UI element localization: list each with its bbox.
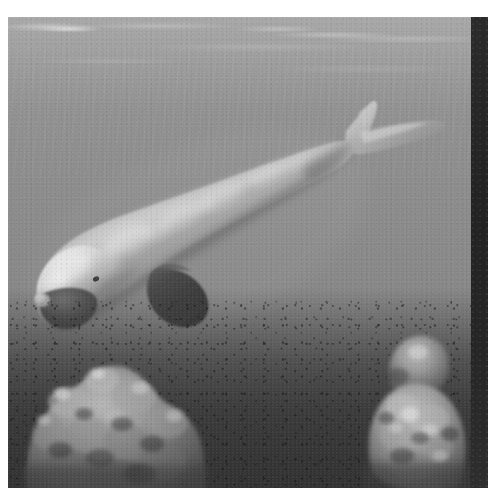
photo-scene-label: underwater bbox=[0, 0, 1, 1]
photograph bbox=[8, 17, 472, 488]
right-band-grain bbox=[471, 17, 488, 488]
coral-right bbox=[362, 322, 470, 488]
photo-color-mode-label: grayscale bbox=[0, 0, 1, 1]
page-root: dugong underwater grayscale bbox=[0, 0, 488, 503]
coral-left bbox=[22, 316, 208, 488]
water-surface-streaks bbox=[8, 47, 472, 177]
right-edge-dark-band bbox=[471, 17, 488, 488]
photo-subject-label: dugong bbox=[0, 0, 1, 1]
